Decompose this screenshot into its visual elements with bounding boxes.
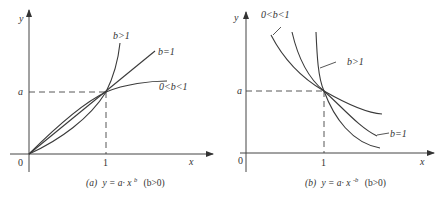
y-axis-label-b: y	[233, 12, 239, 23]
curve-label-b-lt-1-a: 0<b<1	[159, 81, 188, 92]
curve-b-eq-1-b	[292, 32, 377, 136]
caption-condition-a: (b>0)	[144, 178, 165, 189]
curve-label-b-eq-1-b: b=1	[390, 128, 407, 139]
x-tick-1-b: 1	[321, 157, 326, 168]
curve-b-lt-1-b	[271, 35, 382, 114]
origin-label-a: 0	[18, 157, 23, 168]
curve-label-b-lt-1-b: 0<b<1	[261, 9, 290, 20]
caption-exponent-b: -b	[353, 176, 359, 183]
caption-a: (a) y = a· x b (b>0)	[86, 174, 165, 189]
y-axis-label-a: y	[18, 13, 24, 24]
caption-b: (b) y = a· x -b (b>0)	[305, 174, 386, 189]
y-tick-a-b: a	[237, 85, 242, 96]
caption-formula-a: y = a· x	[101, 178, 132, 188]
caption-exponent-a: b	[134, 176, 138, 183]
x-axis-label-b: x	[419, 156, 425, 167]
caption-formula-b: y = a· x	[320, 178, 351, 188]
curve-label-b-gt-1-b: b>1	[347, 56, 364, 67]
curve-b-gt-1-b	[316, 32, 380, 148]
y-tick-a-a: a	[18, 86, 23, 97]
leader-b-gt-1-b	[320, 62, 336, 68]
caption-prefix-a: (a)	[86, 178, 97, 189]
x-axis-label-a: x	[188, 156, 194, 167]
panel-a: y x 0 1 a b>1 b=1 0<b<1 (a) y = a· x b (…	[10, 10, 213, 189]
leader-b-lt-1-b	[273, 27, 281, 35]
curve-label-b-eq-1-a: b=1	[158, 46, 175, 57]
caption-prefix-b: (b)	[305, 178, 316, 189]
origin-label-b: 0	[238, 155, 243, 166]
curve-b-eq-1-a	[29, 51, 155, 154]
power-function-figure: y x 0 1 a b>1 b=1 0<b<1 (a) y = a· x b (…	[0, 0, 441, 200]
caption-condition-b: (b>0)	[365, 178, 386, 189]
panel-b: y x 0 1 a 0<b<1 b>1 b=1 (b) y = a· x -b …	[233, 9, 434, 189]
x-tick-1-a: 1	[103, 157, 108, 168]
curve-label-b-gt-1-a: b>1	[113, 30, 130, 41]
leader-b-eq-1-b	[377, 133, 389, 135]
